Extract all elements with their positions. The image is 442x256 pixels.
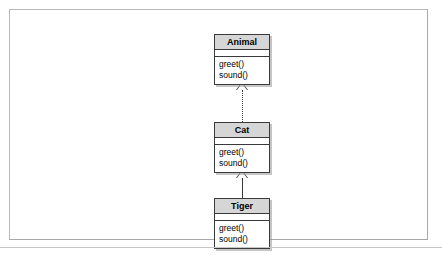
class-name-animal: Animal [215,35,269,50]
class-box-cat[interactable]: Cat greet() sound() [214,122,270,173]
method-item: greet() [215,147,269,158]
methods-compartment-animal: greet() sound() [215,57,269,84]
class-box-tiger[interactable]: Tiger greet() sound() [214,198,270,249]
class-box-animal[interactable]: Animal greet() sound() [214,34,270,85]
attributes-compartment-tiger [215,214,269,221]
diagram-canvas: Animal greet() sound() Cat greet() sound… [9,9,428,240]
attributes-compartment-cat [215,138,269,145]
methods-compartment-cat: greet() sound() [215,145,269,172]
method-item: sound() [215,234,269,245]
class-name-tiger: Tiger [215,199,269,214]
attributes-compartment-animal [215,50,269,57]
methods-compartment-tiger: greet() sound() [215,221,269,248]
method-item: greet() [215,59,269,70]
method-item: sound() [215,70,269,81]
solid-connector-line [242,178,243,198]
class-name-cat: Cat [215,123,269,138]
dotted-connector-line [242,90,243,122]
method-item: greet() [215,223,269,234]
method-item: sound() [215,158,269,169]
bottom-divider [0,247,442,248]
